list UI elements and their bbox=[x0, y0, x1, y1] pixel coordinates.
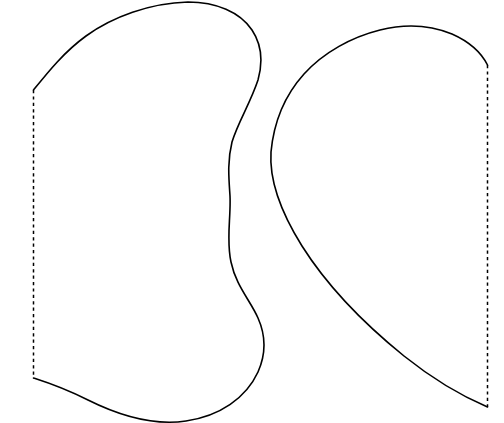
diagram-canvas bbox=[0, 0, 504, 423]
left-region-group bbox=[34, 2, 265, 422]
figure-svg bbox=[0, 0, 504, 423]
